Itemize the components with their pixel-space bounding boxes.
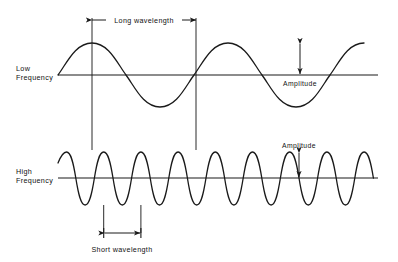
long-wavelength-annotation: Long wavelength [92, 16, 196, 25]
amplitude-low-frequency-annotation: Amplitude [283, 44, 317, 88]
long-wavelength-label: Long wavelength [114, 16, 174, 25]
short-wavelength-label: Short wavelength [91, 245, 152, 254]
amplitude-high-frequency-annotation: Amplitude [282, 142, 316, 177]
wave-diagram-svg: Low Frequency Long wavelength Amplitude … [0, 0, 398, 262]
wave-diagram-figure: Low Frequency Long wavelength Amplitude … [0, 0, 398, 262]
high-frequency-label-line2: Frequency [16, 176, 53, 185]
low-frequency-label-line2: Frequency [16, 73, 53, 82]
high-frequency-group: High Frequency [16, 152, 378, 205]
short-wavelength-annotation: Short wavelength [91, 205, 152, 254]
low-frequency-label-line1: Low [16, 64, 31, 73]
high-frequency-label-line1: High [16, 167, 32, 176]
amplitude-label-low: Amplitude [283, 80, 317, 88]
amplitude-label-high: Amplitude [282, 142, 316, 150]
low-frequency-group: Low Frequency [16, 18, 378, 150]
